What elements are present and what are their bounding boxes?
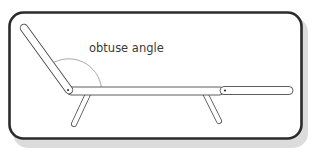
obtuse-angle-diagram: obtuse angle bbox=[0, 0, 312, 153]
hinge-pivot-back bbox=[67, 89, 69, 91]
obtuse-angle-label: obtuse angle bbox=[89, 41, 164, 55]
leg-rest bbox=[220, 87, 293, 95]
hinge-pivot-leg bbox=[224, 89, 226, 91]
seat bbox=[67, 87, 224, 95]
